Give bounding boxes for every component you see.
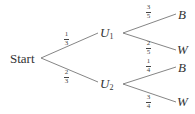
prob-den: 5	[147, 49, 151, 56]
prob-num: 1	[65, 31, 69, 38]
prob-num: 3	[147, 94, 151, 101]
prob-u1-b: 35	[146, 4, 151, 20]
prob-start-u2: 23	[64, 69, 69, 85]
prob-num: 1	[147, 58, 151, 65]
leaf-u1-w: W	[177, 43, 188, 56]
leaf-u2-b: B	[178, 61, 186, 74]
node-u1-base: U	[100, 25, 109, 40]
prob-num: 3	[147, 4, 151, 11]
node-u2: U2	[100, 77, 113, 92]
node-u2-sub: 2	[109, 83, 113, 92]
prob-den: 3	[65, 40, 69, 47]
prob-u2-w: 34	[146, 94, 151, 110]
prob-den: 3	[65, 78, 69, 85]
edge-start-u2	[41, 58, 98, 82]
prob-start-u1: 13	[64, 31, 69, 47]
leaf-u1-b: B	[178, 8, 186, 21]
node-u1: U1	[100, 26, 113, 41]
node-u2-base: U	[100, 76, 109, 91]
leaf-u2-w: W	[177, 95, 188, 108]
prob-num: 2	[147, 40, 151, 47]
probability-tree-diagram: Start U1 U2 B W B W 13 23 35 25 14 34	[0, 0, 195, 114]
prob-den: 4	[147, 67, 151, 74]
prob-num: 2	[65, 69, 69, 76]
edge-start-u1	[41, 33, 98, 58]
prob-u2-b: 14	[146, 58, 151, 74]
prob-den: 5	[147, 13, 151, 20]
start-node: Start	[10, 52, 35, 65]
node-u1-sub: 1	[109, 32, 113, 41]
prob-den: 4	[147, 103, 151, 110]
prob-u1-w: 25	[146, 40, 151, 56]
